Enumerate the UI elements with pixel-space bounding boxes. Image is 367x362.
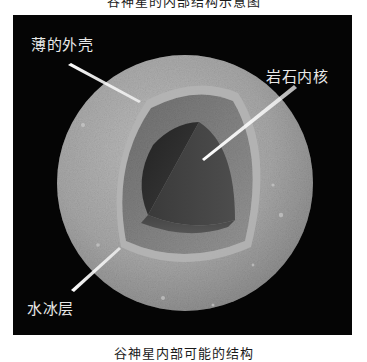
- diagram-panel: 薄的外壳 岩石内核 水冰层: [13, 15, 352, 335]
- figure-title: 谷神星的内部结构示意图: [0, 0, 367, 10]
- figure-caption: 谷神星内部可能的结构: [0, 343, 367, 362]
- label-water-ice-layer: 水冰层: [27, 297, 74, 318]
- sphere-cutaway-illustration: [13, 15, 352, 335]
- label-thin-shell: 薄的外壳: [31, 33, 93, 54]
- label-rocky-core: 岩石内核: [266, 65, 328, 86]
